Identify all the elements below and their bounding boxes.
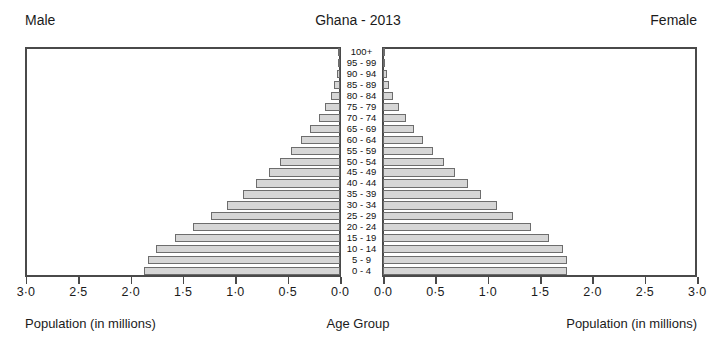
female-bar bbox=[383, 223, 531, 231]
age-group-label: 85 - 89 bbox=[340, 79, 383, 90]
female-bar bbox=[383, 70, 387, 78]
age-group-label: 90 - 94 bbox=[340, 68, 383, 79]
age-group-label: 50 - 54 bbox=[340, 156, 383, 167]
female-bar bbox=[383, 103, 399, 111]
age-group-label: 80 - 84 bbox=[340, 90, 383, 101]
age-group-label: 55 - 59 bbox=[340, 145, 383, 156]
tick-label: 2·5 bbox=[625, 285, 665, 299]
age-group-label: 30 - 34 bbox=[340, 199, 383, 210]
female-bar bbox=[383, 158, 444, 166]
tick-mark bbox=[131, 277, 133, 284]
age-group-label: 95 - 99 bbox=[340, 57, 383, 68]
male-bar bbox=[325, 103, 340, 111]
tick-label: 1·5 bbox=[520, 285, 560, 299]
tick-mark bbox=[235, 277, 237, 284]
tick-mark bbox=[488, 277, 490, 284]
age-group-label: 25 - 29 bbox=[340, 210, 383, 221]
male-bar bbox=[193, 223, 340, 231]
tick-label: 2·0 bbox=[572, 285, 612, 299]
tick-label: 0·5 bbox=[268, 285, 308, 299]
tick-mark bbox=[78, 277, 80, 284]
pyramid-rows: 100+95 - 9990 - 9485 - 8980 - 8475 - 797… bbox=[0, 47, 716, 277]
male-bar bbox=[243, 190, 340, 198]
tick-mark bbox=[540, 277, 542, 284]
age-group-label: 10 - 14 bbox=[340, 243, 383, 254]
tick-mark bbox=[697, 277, 699, 284]
female-bar bbox=[383, 114, 406, 122]
male-bar bbox=[227, 201, 340, 209]
male-bar bbox=[331, 92, 340, 100]
age-group-label: 60 - 64 bbox=[340, 134, 383, 145]
male-bar bbox=[310, 125, 340, 133]
male-bar bbox=[144, 267, 340, 275]
tick-mark bbox=[383, 277, 385, 284]
tick-mark bbox=[288, 277, 290, 284]
tick-mark bbox=[645, 277, 647, 284]
female-side-label: Female bbox=[650, 12, 697, 28]
female-bar bbox=[383, 48, 385, 56]
tick-label: 2·5 bbox=[58, 285, 98, 299]
age-group-label: 0 - 4 bbox=[340, 265, 383, 276]
female-bar bbox=[383, 179, 468, 187]
female-bar bbox=[383, 81, 389, 89]
chart-title: Ghana - 2013 bbox=[0, 12, 716, 28]
age-group-label: 35 - 39 bbox=[340, 188, 383, 199]
male-bar bbox=[148, 256, 340, 264]
figure-supertitle bbox=[0, 0, 716, 4]
age-group-label: 100+ bbox=[340, 46, 383, 57]
axis-ticks bbox=[0, 277, 716, 285]
age-group-label: 65 - 69 bbox=[340, 123, 383, 134]
tick-label: 1·5 bbox=[163, 285, 203, 299]
female-bar bbox=[383, 190, 481, 198]
tick-mark bbox=[340, 277, 342, 284]
female-bar bbox=[383, 234, 549, 242]
female-bar bbox=[383, 168, 455, 176]
female-bar bbox=[383, 92, 393, 100]
tick-label: 0·0 bbox=[320, 285, 360, 299]
tick-label: 3·0 bbox=[6, 285, 46, 299]
age-group-label: 70 - 74 bbox=[340, 112, 383, 123]
male-bar bbox=[211, 212, 340, 220]
age-group-label: 20 - 24 bbox=[340, 221, 383, 232]
male-bar bbox=[175, 234, 340, 242]
female-bar bbox=[383, 147, 433, 155]
female-bar bbox=[383, 136, 423, 144]
tick-label: 0·5 bbox=[415, 285, 455, 299]
female-bar bbox=[383, 256, 567, 264]
right-axis-caption: Population (in millions) bbox=[566, 316, 697, 331]
tick-label: 0·0 bbox=[363, 285, 403, 299]
population-pyramid-figure: Male Ghana - 2013 Female 100+95 - 9990 -… bbox=[0, 0, 716, 354]
tick-mark bbox=[26, 277, 28, 284]
tick-mark bbox=[435, 277, 437, 284]
age-group-label: 75 - 79 bbox=[340, 101, 383, 112]
male-bar bbox=[280, 158, 340, 166]
age-group-label: 5 - 9 bbox=[340, 254, 383, 265]
male-bar bbox=[269, 168, 340, 176]
female-bar bbox=[383, 59, 385, 67]
tick-label: 1·0 bbox=[468, 285, 508, 299]
male-bar bbox=[301, 136, 340, 144]
axis-tick-labels: 3·02·52·01·51·00·50·00·00·51·01·52·02·53… bbox=[0, 285, 716, 301]
female-bar bbox=[383, 267, 567, 275]
tick-mark bbox=[592, 277, 594, 284]
female-bar bbox=[383, 125, 414, 133]
male-bar bbox=[319, 114, 340, 122]
tick-label: 1·0 bbox=[215, 285, 255, 299]
male-bar bbox=[291, 147, 340, 155]
age-group-label: 45 - 49 bbox=[340, 166, 383, 177]
tick-mark bbox=[183, 277, 185, 284]
age-group-label: 40 - 44 bbox=[340, 177, 383, 188]
pyramid-row: 0 - 4 bbox=[0, 266, 716, 277]
tick-label: 2·0 bbox=[111, 285, 151, 299]
female-bar bbox=[383, 201, 497, 209]
female-bar bbox=[383, 212, 513, 220]
female-bar bbox=[383, 245, 563, 253]
male-bar bbox=[156, 245, 340, 253]
age-group-label: 15 - 19 bbox=[340, 232, 383, 243]
tick-label: 3·0 bbox=[677, 285, 716, 299]
male-bar bbox=[256, 179, 340, 187]
